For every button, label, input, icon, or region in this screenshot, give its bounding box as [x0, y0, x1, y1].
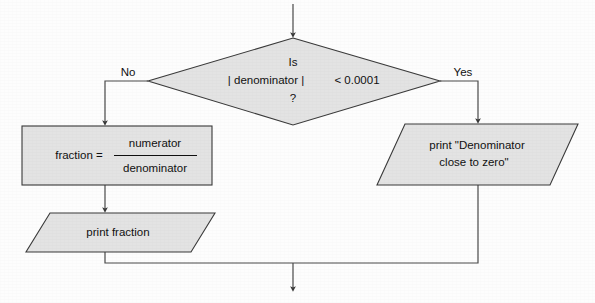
fraction-numerator: numerator — [129, 137, 182, 149]
fraction-denominator: denominator — [123, 162, 187, 174]
process-assign-node[interactable]: fraction = numerator denominator — [22, 126, 212, 185]
output-warning-line-1: print "Denominator — [429, 139, 525, 151]
decision-line-2-left: | denominator | — [228, 74, 304, 86]
connector-yes-branch — [440, 81, 478, 122]
decision-line-3: ? — [290, 92, 296, 104]
decision-line-2-right: < 0.0001 — [334, 74, 379, 86]
output-warning-shape — [377, 124, 578, 185]
edge-label-yes: Yes — [454, 66, 473, 78]
output-fraction-node[interactable]: print fraction — [26, 213, 215, 252]
output-warning-line-2: close to zero" — [439, 156, 508, 168]
connector-print-to-merge — [105, 252, 293, 263]
output-warning-node[interactable]: print "Denominator close to zero" — [377, 124, 578, 185]
edge-label-no: No — [121, 66, 136, 78]
decision-line-1: Is — [289, 56, 298, 68]
process-assign-lhs: fraction = — [55, 149, 103, 161]
connector-warning-to-merge — [293, 185, 478, 263]
decision-node[interactable]: Is | denominator | < 0.0001 ? — [148, 38, 440, 125]
connector-no-branch — [105, 81, 148, 124]
flowchart-canvas: Is | denominator | < 0.0001 ? No Yes fra… — [0, 0, 595, 303]
flowchart-svg: Is | denominator | < 0.0001 ? No Yes fra… — [0, 0, 595, 303]
output-fraction-text: print fraction — [86, 226, 149, 238]
